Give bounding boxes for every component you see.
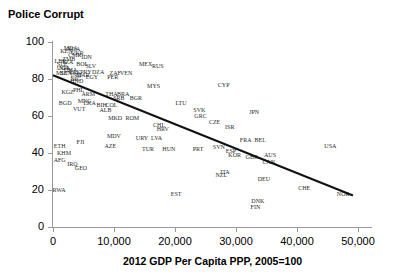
x-tick-label: 50,000 (328, 235, 388, 247)
data-point-label: KGZ (61, 89, 73, 95)
data-point-label: FIN (251, 204, 261, 210)
data-point-label: ROM (125, 115, 139, 121)
data-point-label: AUS (264, 152, 276, 158)
data-point-label: BGD (59, 100, 72, 106)
x-tick-mark (53, 228, 54, 232)
y-tick-label: 100 (14, 35, 44, 47)
x-tick-mark (114, 228, 115, 232)
data-point-label: NOR (337, 191, 350, 197)
data-point-label: JPN (249, 109, 259, 115)
x-tick-label: 10,000 (84, 235, 144, 247)
data-point-label: USA (324, 143, 336, 149)
data-point-label: LVA (151, 135, 162, 141)
data-point-label: AFG (54, 157, 66, 163)
chart-title: Police Corrupt (8, 8, 84, 20)
data-point-label: KHM (57, 150, 71, 156)
x-tick-mark (175, 228, 176, 232)
data-point-label: CZE (209, 119, 220, 125)
data-point-label: KOR (228, 152, 241, 158)
data-point-label: BGR (130, 95, 142, 101)
y-tick-label: 20 (14, 183, 44, 195)
data-point-label: GRC (194, 113, 206, 119)
x-tick-label: 20,000 (145, 235, 205, 247)
data-point-label: RUS (152, 63, 164, 69)
y-tick-label: 0 (14, 220, 44, 232)
x-tick-label: 40,000 (267, 235, 327, 247)
y-tick-mark (48, 227, 52, 228)
data-point-label: AZE (104, 143, 116, 149)
y-tick-label: 80 (14, 72, 44, 84)
data-point-label: SRB (113, 95, 124, 101)
y-tick-mark (48, 153, 52, 154)
data-point-label: MDV (107, 133, 121, 139)
data-point-label: ARM (82, 91, 96, 97)
x-tick-mark (358, 228, 359, 232)
data-point-label: ETH (54, 143, 66, 149)
data-point-label: CHE (298, 185, 310, 191)
data-point-label: CAN (262, 159, 275, 165)
x-axis-title: 2012 GDP Per Capita PPP, 2005=100 (123, 255, 302, 267)
data-point-label: HRV (157, 126, 169, 132)
data-point-label: PER (107, 74, 118, 80)
data-point-label: VEN (120, 70, 132, 76)
x-axis-line (52, 227, 372, 228)
y-tick-mark (48, 42, 52, 43)
data-point-label: VUT (73, 106, 85, 112)
x-tick-mark (297, 228, 298, 232)
x-tick-label: 0 (23, 235, 83, 247)
scatter-chart: Police Corrupt 020406080100 010,00020,00… (0, 0, 398, 280)
data-point-label: EGY (86, 74, 98, 80)
data-point-label: EST (171, 191, 182, 197)
data-point-label: GEO (75, 165, 87, 171)
data-point-label: URY (136, 135, 148, 141)
data-point-label: LTU (175, 100, 186, 106)
data-point-label: DEU (258, 176, 270, 182)
data-point-label: BEL (255, 137, 266, 143)
data-point-label: ALB (99, 107, 111, 113)
data-point-label: RWA (53, 187, 66, 193)
data-point-label: TUR (142, 146, 154, 152)
data-point-label: IDN (81, 54, 92, 60)
data-point-label: CYP (218, 82, 230, 88)
x-tick-label: 30,000 (206, 235, 266, 247)
data-point-label: NZL (215, 172, 227, 178)
data-point-label: MKD (108, 115, 122, 121)
data-point-label: MYS (147, 83, 160, 89)
data-point-label: HUN (162, 146, 175, 152)
data-point-label: MLI (56, 70, 67, 76)
data-point-label: GBR (246, 154, 258, 160)
data-point-label: FRA (240, 137, 252, 143)
data-point-label: FJI (77, 139, 85, 145)
data-point-label: SVN (213, 144, 225, 150)
x-tick-mark (236, 228, 237, 232)
y-tick-mark (48, 79, 52, 80)
y-tick-label: 40 (14, 146, 44, 158)
y-tick-mark (48, 190, 52, 191)
y-tick-mark (48, 116, 52, 117)
data-point-label: MEX (139, 61, 152, 67)
plot-area: MDANGAKENUKRCMRIDNZMBLBRTZASLEBOLSLVNPLU… (53, 42, 370, 227)
data-point-label: PRT (193, 146, 204, 152)
y-tick-label: 60 (14, 109, 44, 121)
data-point-label: ISR (225, 124, 234, 130)
data-point-label: HND (70, 78, 83, 84)
